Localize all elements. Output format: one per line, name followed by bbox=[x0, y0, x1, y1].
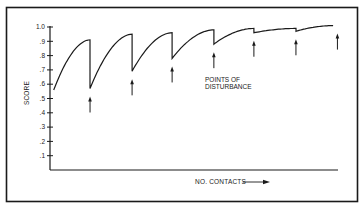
y-tick-label: .8 bbox=[40, 52, 46, 59]
score-curve bbox=[54, 26, 333, 90]
y-tick-label: .2 bbox=[40, 138, 46, 145]
disturbance-arrows bbox=[88, 34, 339, 113]
y-tick-label: .1 bbox=[40, 152, 46, 159]
y-tick-label: .5 bbox=[40, 95, 46, 102]
x-axis-title: NO. CONTACTS bbox=[195, 178, 246, 185]
learning-curve-chart: .1.2.3.4.5.6.7.8.91.0 SCORE POINTS OF DI… bbox=[0, 0, 363, 209]
annotation-line-1: POINTS OF bbox=[205, 76, 240, 83]
annotation-line-2: DISTURBANCE bbox=[205, 83, 252, 90]
y-tick-label: .3 bbox=[40, 123, 46, 130]
disturbance-arrow-icon bbox=[252, 41, 256, 57]
x-axis-arrow-icon bbox=[243, 180, 270, 184]
disturbance-arrow-icon bbox=[336, 34, 340, 50]
y-tick-label: .7 bbox=[40, 66, 46, 73]
disturbance-arrow-icon bbox=[212, 52, 216, 68]
y-axis-title: SCORE bbox=[23, 80, 30, 105]
disturbance-arrow-icon bbox=[170, 66, 174, 82]
disturbance-arrow-icon bbox=[294, 39, 298, 55]
axes bbox=[50, 26, 338, 170]
y-tick-label: 1.0 bbox=[36, 23, 45, 30]
y-tick-label: .4 bbox=[40, 109, 46, 116]
y-tick-label: .9 bbox=[40, 38, 46, 45]
disturbance-arrow-icon bbox=[88, 96, 92, 112]
figure-frame bbox=[7, 8, 358, 202]
y-tick-label: .6 bbox=[40, 80, 46, 87]
disturbance-arrow-icon bbox=[130, 79, 134, 95]
